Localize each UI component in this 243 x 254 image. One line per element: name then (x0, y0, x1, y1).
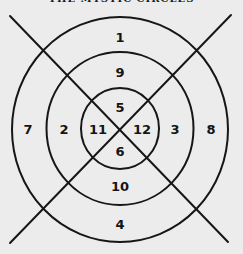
number-left-outer: 7 (23, 123, 32, 136)
number-top-middle: 9 (115, 66, 124, 79)
puzzle-page: THE MYSTIC CIRCLES 1 9 5 6 10 4 7 2 11 1… (0, 0, 243, 254)
number-top-outer: 1 (115, 31, 124, 44)
number-bottom-inner: 6 (115, 145, 124, 158)
number-left-inner: 11 (89, 123, 107, 136)
number-bottom-middle: 10 (111, 180, 129, 193)
number-right-middle: 3 (170, 123, 179, 136)
number-top-inner: 5 (115, 101, 124, 114)
number-left-middle: 2 (59, 123, 68, 136)
number-right-inner: 12 (133, 123, 151, 136)
number-bottom-outer: 4 (115, 218, 124, 231)
number-right-outer: 8 (206, 123, 215, 136)
